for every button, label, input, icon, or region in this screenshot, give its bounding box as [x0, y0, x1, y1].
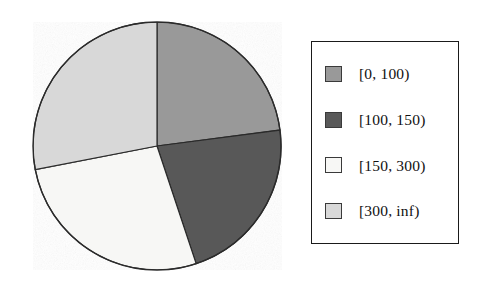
pie-slice-300-inf[interactable]: [33, 22, 157, 170]
legend-swatch-100-150: [325, 112, 342, 128]
legend-item-300-inf[interactable]: [300, inf): [312, 191, 458, 231]
pie-plot-area: [0, 0, 300, 284]
legend-item-100-150[interactable]: [100, 150): [312, 100, 458, 140]
legend-swatch-150-300: [325, 157, 342, 173]
legend-item-150-300[interactable]: [150, 300): [312, 145, 458, 185]
legend-swatch-300-inf: [325, 203, 342, 219]
legend-swatch-0-100: [325, 66, 342, 82]
legend-label-300-inf: [300, inf): [359, 203, 420, 219]
legend-item-0-100[interactable]: [0, 100): [312, 54, 458, 94]
pie-svg: [0, 0, 300, 284]
pie-chart-figure: [0, 100) [100, 150) [150, 300) [300, inf…: [0, 0, 477, 284]
legend-label-100-150: [100, 150): [359, 112, 426, 128]
legend-box: [0, 100) [100, 150) [150, 300) [300, inf…: [311, 41, 459, 244]
legend-label-0-100: [0, 100): [359, 66, 410, 82]
pie-slice-0-100[interactable]: [157, 22, 280, 146]
legend-list: [0, 100) [100, 150) [150, 300) [300, inf…: [312, 42, 458, 243]
legend-label-150-300: [150, 300): [359, 158, 426, 174]
